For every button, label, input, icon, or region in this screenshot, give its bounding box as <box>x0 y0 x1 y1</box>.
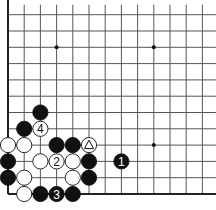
white-stone[interactable]: 2 <box>49 154 64 169</box>
white-stone[interactable] <box>65 170 80 185</box>
star-point <box>152 143 156 147</box>
black-stone[interactable] <box>81 154 96 169</box>
black-stone[interactable] <box>33 105 48 120</box>
black-stone[interactable] <box>81 170 96 185</box>
star-point <box>55 45 59 49</box>
black-stone[interactable] <box>33 186 48 201</box>
white-stone[interactable] <box>65 154 80 169</box>
white-stone[interactable] <box>17 138 32 153</box>
white-stone[interactable] <box>17 170 32 185</box>
white-stone[interactable] <box>17 186 32 201</box>
move-number: 3 <box>53 188 60 202</box>
black-stone[interactable] <box>0 170 15 185</box>
white-stone[interactable] <box>0 138 15 153</box>
black-stone[interactable] <box>17 121 32 136</box>
white-stone[interactable]: 4 <box>33 121 48 136</box>
black-stone[interactable]: 1 <box>114 154 129 169</box>
black-stone[interactable] <box>0 154 15 169</box>
star-point <box>152 45 156 49</box>
white-stone[interactable] <box>33 154 48 169</box>
move-number: 2 <box>53 155 60 169</box>
move-number: 1 <box>118 155 125 169</box>
move-number: 4 <box>37 122 44 136</box>
white-stone[interactable] <box>81 138 96 153</box>
black-stone[interactable] <box>65 138 80 153</box>
black-stone[interactable]: 3 <box>49 186 64 201</box>
black-stone[interactable] <box>49 138 64 153</box>
black-stone[interactable] <box>65 186 80 201</box>
go-board[interactable]: 4213 <box>0 0 216 210</box>
